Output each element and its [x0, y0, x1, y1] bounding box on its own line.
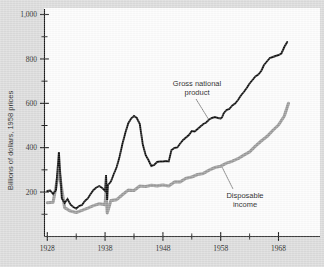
- series-line-gross-national-product: [47, 42, 287, 209]
- chart-page: 1,000 800 600 400 200 Billions of dollar…: [0, 0, 324, 267]
- disposable-leader-line: [222, 167, 233, 189]
- y-tick-label-800: 800: [26, 55, 38, 64]
- gnp-label-line2: product: [184, 88, 210, 97]
- annotation-disposable-income: Disposable income: [222, 167, 264, 209]
- x-tick-label-1948: 1948: [155, 244, 170, 253]
- y-tick-label-200: 200: [26, 188, 38, 197]
- annotation-gross-national-product: Gross national product: [173, 79, 222, 120]
- y-tick-labels: 1,000 800 600 400 200: [20, 10, 37, 197]
- disposable-label-line1: Disposable: [226, 191, 263, 200]
- x-tick-labels: 1928 1938 1948 1958 1968: [40, 244, 286, 253]
- x-tick-label-1968: 1968: [271, 244, 286, 253]
- y-tick-label-1000: 1,000: [20, 10, 37, 19]
- disposable-label-line2: income: [233, 200, 257, 209]
- y-tick-label-400: 400: [26, 143, 38, 152]
- chart-canvas: 1,000 800 600 400 200 Billions of dollar…: [0, 0, 324, 267]
- y-axis-title: Billions of dollars, 1958 prices: [6, 91, 15, 190]
- x-tick-label-1938: 1938: [98, 244, 113, 253]
- gnp-leader-line: [196, 99, 209, 120]
- x-tick-label-1928: 1928: [40, 244, 55, 253]
- gnp-label-line1: Gross national: [173, 79, 222, 88]
- x-tick-label-1958: 1958: [213, 244, 228, 253]
- y-tick-label-600: 600: [26, 99, 38, 108]
